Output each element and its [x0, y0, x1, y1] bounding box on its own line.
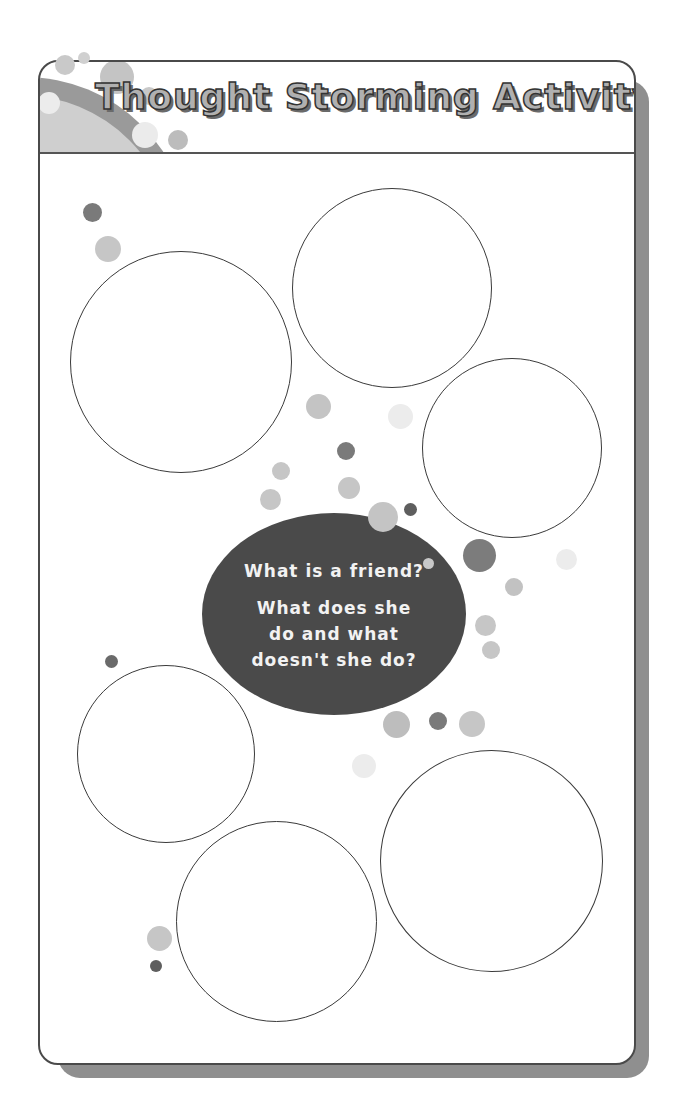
worksheet-title: Thought Storming Activity — [95, 76, 634, 117]
decorative-dot-icon — [459, 711, 485, 737]
prompt-question-1: What is a friend? — [244, 561, 424, 581]
decorative-dot-icon — [337, 442, 355, 460]
decorative-dot-icon — [260, 489, 281, 510]
decorative-dot-icon — [388, 404, 413, 429]
decorative-dot-icon — [352, 754, 376, 778]
answer-bubble-lower-left[interactable] — [77, 665, 255, 843]
decorative-dot-icon — [147, 926, 172, 951]
decorative-dot-icon — [95, 236, 121, 262]
answer-bubble-top-middle[interactable] — [292, 188, 492, 388]
decorative-dot-icon — [78, 52, 90, 64]
prompt-question-2: What does she do and what doesn't she do… — [244, 595, 424, 673]
decorative-dot-icon — [475, 615, 496, 636]
decorative-dot-icon — [150, 960, 162, 972]
decorative-dot-icon — [368, 502, 398, 532]
decorative-dot-icon — [338, 477, 360, 499]
worksheet-header: Thought Storming Activity — [40, 62, 634, 154]
header-dot-icon — [168, 130, 188, 150]
answer-bubble-bottom-middle[interactable] — [176, 821, 377, 1022]
decorative-dot-icon — [463, 539, 496, 572]
decorative-dot-icon — [423, 558, 434, 569]
decorative-dot-icon — [83, 203, 102, 222]
decorative-dot-icon — [272, 462, 290, 480]
answer-bubble-bottom-right[interactable] — [380, 750, 603, 972]
decorative-dot-icon — [505, 578, 523, 596]
answer-bubble-top-left[interactable] — [70, 251, 292, 473]
decorative-dot-icon — [429, 712, 447, 730]
decorative-dot-icon — [482, 641, 500, 659]
answer-bubble-right[interactable] — [422, 358, 602, 538]
decorative-dot-icon — [306, 394, 331, 419]
header-dot-icon — [132, 122, 158, 148]
decorative-dot-icon — [55, 55, 75, 75]
decorative-dot-icon — [404, 503, 417, 516]
decorative-dot-icon — [556, 549, 577, 570]
decorative-dot-icon — [105, 655, 118, 668]
central-prompt-oval: What is a friend? What does she do and w… — [202, 513, 466, 715]
decorative-dot-icon — [383, 711, 410, 738]
